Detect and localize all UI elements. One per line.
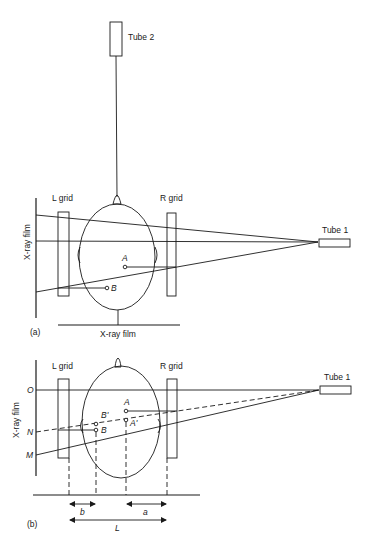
tube-1-a: [319, 239, 350, 247]
panel-b: X-ray film O N M L grid R grid A A' B' B: [11, 358, 351, 533]
beam-m: [36, 390, 319, 455]
tube-1-label-a: Tube 1: [322, 225, 348, 235]
tube-2-label: Tube 2: [128, 32, 154, 42]
point-a-prime-marker: [124, 418, 128, 422]
point-a-marker-b: [124, 409, 128, 413]
tube-1-label-b: Tube 1: [324, 372, 350, 382]
dimension-b-label: b: [80, 507, 85, 517]
head-b: [82, 366, 160, 478]
film-point-n: N: [27, 427, 34, 437]
side-film-label-b: X-ray film: [11, 402, 21, 438]
right-grid-a: [167, 213, 176, 296]
right-grid-label-a: R grid: [160, 193, 183, 203]
left-grid-label-b: L grid: [52, 361, 73, 371]
side-film-label-a: X-ray film: [22, 224, 32, 260]
point-b-marker-b: [94, 428, 98, 432]
tube-2: [110, 22, 122, 56]
panel-a: Tube 2 X-ray film L grid R grid A B Tube…: [22, 22, 350, 339]
panel-b-caption: (b): [27, 519, 38, 529]
dimension-l-label: L: [115, 523, 120, 533]
point-b-label-b: B: [101, 425, 107, 435]
point-a-label-a: A: [121, 253, 128, 263]
left-grid-label-a: L grid: [52, 193, 73, 203]
dimension-a-label: a: [143, 507, 148, 517]
panel-a-caption: (a): [30, 327, 41, 337]
right-grid-b: [167, 379, 177, 458]
point-a-label-b: A: [123, 397, 130, 407]
film-point-m: M: [26, 450, 34, 460]
point-b-prime-label: B': [101, 410, 109, 420]
left-grid-b: [58, 379, 69, 458]
beam-lower-a: [36, 242, 318, 292]
point-a-prime-label: A': [129, 418, 138, 428]
point-b-label-a: B: [111, 283, 117, 293]
film-point-o: O: [27, 385, 34, 395]
beam-center-a: [36, 241, 318, 242]
stereo-xray-diagram: Tube 2 X-ray film L grid R grid A B Tube…: [0, 0, 375, 534]
beam-upper-a: [36, 215, 318, 242]
tube-1-b: [320, 386, 351, 394]
right-grid-label-b: R grid: [160, 361, 183, 371]
beam-n-dashed: [36, 390, 319, 432]
left-grid-a: [58, 212, 69, 296]
bottom-film-label-a: X-ray film: [100, 329, 136, 339]
point-b-marker: [105, 286, 109, 290]
point-b-prime-marker: [94, 422, 98, 426]
point-a-marker: [123, 265, 127, 269]
tube-2-beam: [116, 56, 117, 197]
